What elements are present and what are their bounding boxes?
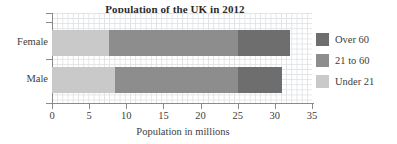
- y-axis-tick: [46, 22, 53, 23]
- bar-segment-female-under-21: [52, 30, 109, 56]
- bar-female: [52, 30, 290, 56]
- x-axis-tick-label: 5: [77, 110, 101, 121]
- x-axis-tick: [238, 104, 239, 109]
- legend-swatch-over-60: [316, 33, 329, 46]
- category-label-male: Male: [4, 73, 48, 84]
- legend-item-21-to-60: 21 to 60: [316, 50, 396, 70]
- legend-label-21-to-60: 21 to 60: [335, 55, 369, 66]
- x-axis-tick-label: 0: [40, 110, 64, 121]
- x-axis-tick: [163, 104, 164, 109]
- x-axis-tick: [52, 104, 53, 109]
- bar-segment-female-over-60: [238, 30, 290, 56]
- legend: Over 60 21 to 60 Under 21: [316, 29, 396, 92]
- bar-segment-male-under-21: [52, 67, 115, 93]
- legend-swatch-21-to-60: [316, 54, 329, 67]
- legend-label-over-60: Over 60: [335, 34, 369, 45]
- x-axis-title: Population in millions: [52, 126, 314, 137]
- legend-item-over-60: Over 60: [316, 29, 396, 49]
- x-axis-tick: [201, 104, 202, 109]
- x-axis-tick-label: 25: [226, 110, 250, 121]
- x-axis-tick: [312, 104, 313, 109]
- x-axis-tick-label: 35: [300, 110, 324, 121]
- legend-swatch-under-21: [316, 75, 329, 88]
- bar-segment-male-21-to-60: [115, 67, 238, 93]
- legend-label-under-21: Under 21: [335, 76, 374, 87]
- x-axis-tick-label: 15: [151, 110, 175, 121]
- bar-segment-male-over-60: [238, 67, 283, 93]
- category-label-female: Female: [4, 36, 48, 47]
- chart-figure: Population of the UK in 2012 Female Male…: [0, 0, 397, 144]
- y-axis-tick: [46, 13, 53, 14]
- bar-segment-female-21-to-60: [109, 30, 238, 56]
- x-axis-tick: [89, 104, 90, 109]
- x-axis-tick-label: 30: [263, 110, 287, 121]
- y-axis-tick: [46, 59, 53, 60]
- x-axis-tick-label: 20: [189, 110, 213, 121]
- x-axis-tick: [126, 104, 127, 109]
- bar-male: [52, 67, 282, 93]
- x-axis-tick-label: 10: [114, 110, 138, 121]
- x-axis-tick: [275, 104, 276, 109]
- legend-item-under-21: Under 21: [316, 71, 396, 91]
